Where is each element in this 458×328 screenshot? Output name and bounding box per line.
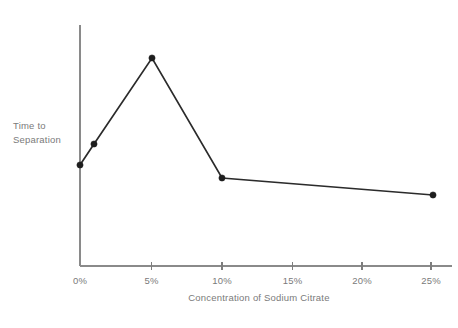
data-point-marker	[77, 162, 83, 168]
x-tick-label: 25%	[421, 275, 441, 286]
data-point-marker	[430, 192, 436, 198]
series-data-points	[77, 55, 436, 198]
chart-figure: 0%5%10%15%20%25% Time toSeparation Conce…	[0, 0, 458, 328]
x-axis-tick-labels: 0%5%10%15%20%25%	[73, 275, 441, 286]
chart-axes	[80, 25, 452, 266]
series-line-path	[80, 58, 433, 195]
y-axis-label: Time toSeparation	[13, 120, 61, 145]
x-tick-label: 20%	[352, 275, 372, 286]
y-axis-label-line: Time to	[13, 120, 46, 131]
data-point-marker	[149, 55, 155, 61]
x-tick-label: 5%	[144, 275, 158, 286]
x-tick-label: 10%	[212, 275, 232, 286]
y-axis-label-line: Separation	[13, 134, 61, 145]
x-tick-label: 0%	[73, 275, 87, 286]
data-point-marker	[91, 141, 97, 147]
x-tick-label: 15%	[283, 275, 303, 286]
data-series-time-to-separation	[77, 55, 436, 198]
data-point-marker	[219, 175, 225, 181]
x-axis-label: Concentration of Sodium Citrate	[188, 292, 329, 303]
line-chart-canvas: 0%5%10%15%20%25% Time toSeparation Conce…	[0, 0, 458, 328]
